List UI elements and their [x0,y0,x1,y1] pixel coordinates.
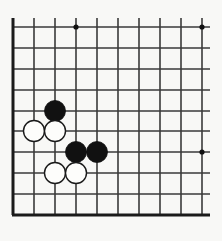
stone-white white-1[interactable] [24,121,45,142]
stone-white white-2[interactable] [45,121,66,142]
star-point-right-middle [199,149,204,154]
go-board-canvas[interactable] [0,0,222,241]
go-board[interactable] [0,0,222,241]
go-board-screenshot [0,0,222,241]
stone-white white-3[interactable] [45,163,66,184]
stone-black black-3[interactable] [87,142,108,163]
stone-white white-4[interactable] [66,163,87,184]
star-point-top-right [199,24,204,29]
stone-black black-2[interactable] [66,142,87,163]
stone-black black-1[interactable] [45,101,66,122]
star-point-top-left [73,24,78,29]
